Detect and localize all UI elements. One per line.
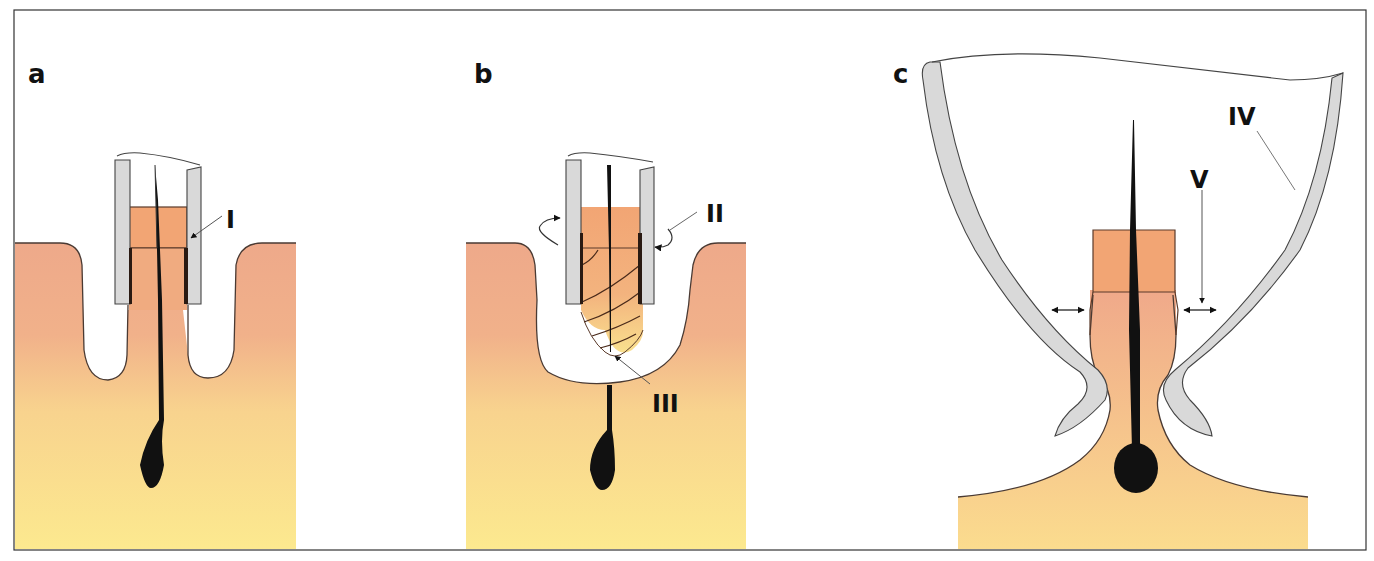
- punch-wall-left-a: [115, 160, 130, 304]
- incision-edge-right-b: [638, 233, 642, 304]
- panel-label-a: a: [28, 59, 46, 89]
- annotation-label-iii: III: [652, 390, 679, 418]
- hair-graft-extraction-diagram: I a II I: [0, 0, 1374, 561]
- annotation-label-i: I: [226, 206, 235, 234]
- annotation-label-ii: II: [706, 200, 724, 228]
- hair-bulb-c: [1114, 443, 1158, 493]
- incision-edge-left-a: [129, 248, 132, 304]
- punch-wall-right-b: [640, 167, 654, 304]
- panel-label-b: b: [474, 59, 493, 89]
- panel-label-c: c: [893, 59, 908, 89]
- incision-edge-left-b: [580, 233, 583, 304]
- punch-wall-left-b: [566, 160, 581, 304]
- incision-edge-right-a: [184, 248, 188, 304]
- annotation-label-iv: IV: [1228, 103, 1256, 131]
- annotation-label-v: V: [1190, 166, 1209, 194]
